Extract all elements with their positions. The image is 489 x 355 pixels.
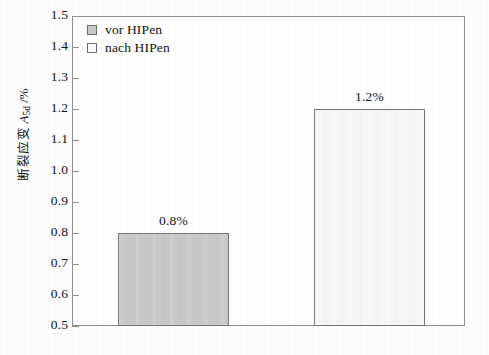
legend-item-nach-hipen: nach HIPen — [87, 39, 170, 56]
bar-nach-hipen — [314, 109, 425, 326]
y-axis-title-unit: /% — [16, 88, 31, 102]
y-tick-mark — [72, 295, 79, 296]
y-tick-label: 0.6 — [51, 286, 68, 302]
bar-value-label: 1.2% — [314, 89, 425, 105]
y-tick-label: 1.5 — [51, 7, 68, 23]
y-axis-title-subscript: 5d — [22, 106, 32, 116]
y-axis-title: 断裂应变 A5d /% — [13, 35, 32, 235]
y-tick-label: 1.1 — [51, 131, 68, 147]
y-axis-title-cjk: 断裂应变 — [16, 127, 31, 181]
y-tick-mark — [72, 326, 79, 327]
y-tick-mark — [72, 202, 79, 203]
y-tick-label: 0.5 — [51, 317, 68, 333]
legend-label-nach-hipen: nach HIPen — [105, 40, 170, 56]
y-axis-title-symbol: A — [16, 116, 31, 124]
y-tick-label: 0.8 — [51, 224, 68, 240]
y-tick-label: 0.7 — [51, 255, 68, 271]
y-tick-label: 1.2 — [51, 100, 68, 116]
y-tick-label: 1.0 — [51, 162, 68, 178]
legend-label-vor-hipen: vor HIPen — [105, 22, 162, 38]
y-tick-mark — [72, 264, 79, 265]
bar-vor-hipen — [118, 233, 229, 326]
y-tick-mark — [72, 109, 79, 110]
y-tick-label: 0.9 — [51, 193, 68, 209]
y-tick-mark — [72, 16, 79, 17]
legend-swatch-vor-hipen — [87, 25, 97, 35]
y-tick-mark — [72, 47, 79, 48]
y-tick-label: 1.4 — [51, 38, 68, 54]
legend-swatch-nach-hipen — [87, 43, 97, 53]
y-tick-mark — [72, 171, 79, 172]
bar-texture — [119, 234, 228, 325]
y-tick-mark — [72, 233, 79, 234]
y-tick-label: 1.3 — [51, 69, 68, 85]
y-tick-mark — [72, 140, 79, 141]
bar-texture — [315, 110, 424, 325]
y-tick-mark — [72, 78, 79, 79]
chart-legend: vor HIPen nach HIPen — [87, 21, 170, 57]
legend-item-vor-hipen: vor HIPen — [87, 21, 170, 38]
bar-value-label: 0.8% — [118, 213, 229, 229]
chart-figure: 1.51.41.31.21.11.00.90.80.70.60.5 断裂应变 A… — [0, 0, 489, 355]
